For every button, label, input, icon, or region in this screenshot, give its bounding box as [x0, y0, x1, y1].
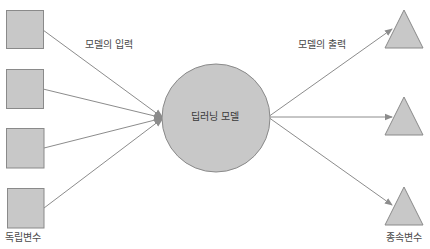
output-node-triangle-1: [385, 10, 423, 48]
input-edge-4: [44, 118, 163, 208]
output-node-triangle-3: [385, 187, 423, 225]
inputs-label: 독립변수: [5, 232, 41, 244]
diagram-canvas: [0, 0, 430, 249]
output-node-triangle-2: [385, 97, 423, 135]
input-edge-2: [43, 89, 163, 118]
output-edge-3: [268, 117, 392, 205]
deep-learning-diagram: 모델의 입력 모델의 출력 딥러닝 모델 독립변수 종속변수: [0, 0, 430, 249]
input-edge-3: [44, 118, 163, 148]
input-node-square-3: [7, 129, 45, 169]
input-node-square-1: [7, 11, 44, 49]
input-node-square-4: [8, 189, 45, 229]
output-edge-label: 모델의 출력: [298, 39, 346, 51]
outputs-label: 종속변수: [386, 232, 422, 244]
input-edges: [43, 30, 163, 208]
input-node-square-2: [7, 70, 44, 109]
model-label: 딥러닝 모델: [191, 111, 239, 123]
input-edge-label: 모델의 입력: [85, 39, 133, 51]
output-edges: [268, 29, 392, 205]
input-nodes: [7, 11, 45, 229]
